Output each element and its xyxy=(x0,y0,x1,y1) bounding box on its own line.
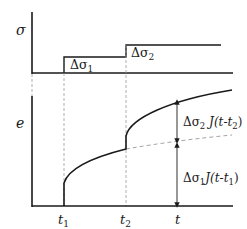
creep-curve-extrapolation xyxy=(126,135,232,149)
tick-t2: t2 xyxy=(120,212,131,229)
stress-panel: σ Δσ1 Δσ2 xyxy=(16,12,233,74)
annotation-delta1: Δσ1J(t-t1) xyxy=(183,171,239,187)
step-label-2: Δσ2 xyxy=(131,45,154,62)
tick-t1: t1 xyxy=(58,212,69,229)
creep-curve xyxy=(64,90,232,206)
strain-panel: e Δσ2 J(t-t2) Δσ1J(t-t1) t1 t2 t xyxy=(16,90,242,229)
creep-superposition-diagram: σ Δσ1 Δσ2 e Δσ2 J(t-t2) Δσ1J(t-t1) t1 xyxy=(0,0,247,229)
time-axis-label: t xyxy=(175,212,181,227)
step-label-1: Δσ1 xyxy=(70,57,93,74)
strain-axis-label: e xyxy=(16,115,24,131)
stress-axis-label: σ xyxy=(16,22,26,38)
annotation-delta2: Δσ2 J(t-t2) xyxy=(183,115,242,131)
